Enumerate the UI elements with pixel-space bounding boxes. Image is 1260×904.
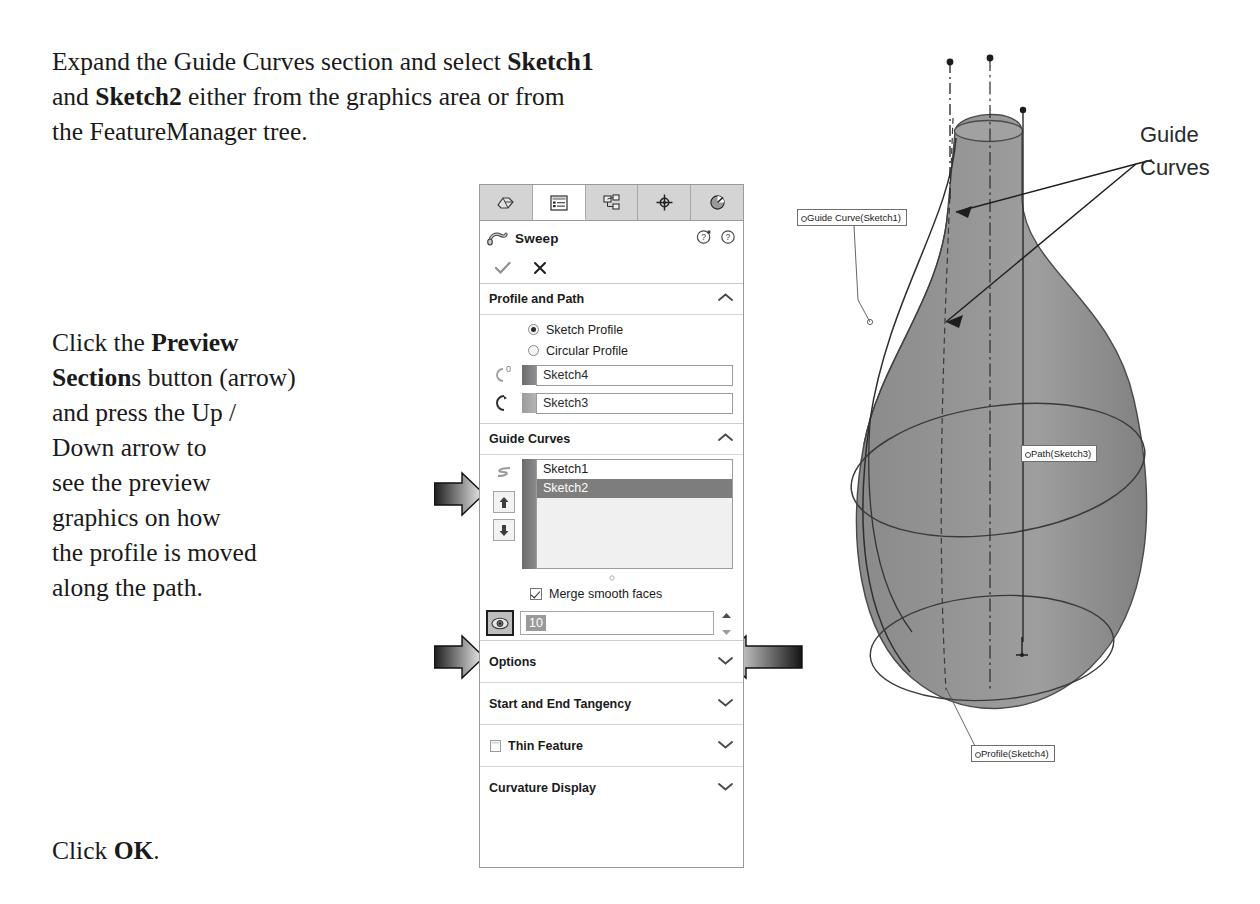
- annotation-line-1: Guide: [1140, 118, 1210, 151]
- list-item[interactable]: Sketch1: [537, 460, 732, 479]
- intro-bold-sketch1: Sketch1: [507, 47, 593, 76]
- section-label-start-and-end-tangency: Start and End Tangency: [489, 697, 631, 711]
- page-title: Sweep: [515, 231, 559, 246]
- tutorial-page: Expand the Guide Curves section and sele…: [0, 0, 1260, 904]
- section-header-guide-curves[interactable]: Guide Curves: [480, 424, 743, 455]
- intro-text-1: Expand the Guide Curves section and sele…: [52, 47, 507, 76]
- help-whats-new-icon[interactable]: ?: [696, 228, 713, 248]
- profile-sweep-icon: 0: [486, 364, 522, 386]
- preview-sections-spinner[interactable]: [720, 611, 733, 635]
- display-manager-tab[interactable]: [691, 185, 743, 220]
- preview-text-4: Down arrow to: [52, 433, 206, 462]
- path-endpoint: [1020, 107, 1026, 113]
- dimxpert-manager-tab[interactable]: [638, 185, 691, 220]
- preview-text-8: along the path.: [52, 573, 203, 602]
- annotation-line-2: Curves: [1140, 151, 1210, 184]
- annotation-guide-curves-label: Guide Curves: [1140, 118, 1210, 184]
- guide-curve-callout[interactable]: Guide Curve(Sketch1): [797, 209, 907, 226]
- radio-sketch-profile-label: Sketch Profile: [546, 323, 623, 337]
- preview-text-3: and press the Up /: [52, 398, 236, 427]
- preview-sections-count-input[interactable]: 10: [520, 611, 714, 635]
- eye-preview-sections-icon[interactable]: [486, 610, 514, 636]
- move-guide-curve-down-button[interactable]: [493, 519, 515, 541]
- merge-smooth-faces-checkbox[interactable]: Merge smooth faces: [480, 582, 743, 606]
- section-label-thin-feature: Thin Feature: [508, 739, 583, 753]
- cross-icon[interactable]: [532, 260, 548, 279]
- sweep-icon: [487, 229, 509, 247]
- path-endpoint-top: [947, 59, 954, 66]
- intro-bold-sketch2: Sketch2: [95, 82, 181, 111]
- chevron-down-icon[interactable]: [717, 697, 734, 711]
- ok-text-2: .: [153, 836, 159, 865]
- vase-top-opening: [955, 121, 1023, 142]
- preview-text-7: the profile is moved: [52, 538, 257, 567]
- preview-sections-count-value: 10: [526, 615, 546, 631]
- configuration-manager-tab[interactable]: [586, 185, 639, 220]
- section-header-thin-feature[interactable]: Thin Feature: [480, 725, 743, 767]
- chevron-up-icon[interactable]: [717, 432, 734, 446]
- svg-text:?: ?: [726, 232, 731, 242]
- preview-text-6: graphics on how: [52, 503, 221, 532]
- section-header-options[interactable]: Options: [480, 641, 743, 683]
- guide-curves-toolbar: [486, 459, 522, 569]
- chevron-down-icon[interactable]: [717, 655, 734, 669]
- guide-curve-callout-leader: [854, 226, 870, 322]
- section-header-profile-and-path[interactable]: Profile and Path: [480, 284, 743, 315]
- path-selection-field[interactable]: Sketch3: [536, 393, 733, 414]
- merge-smooth-faces-checkbox-indicator: [530, 588, 542, 600]
- svg-text:0: 0: [506, 364, 511, 374]
- thin-feature-checkbox-icon[interactable]: [489, 739, 502, 753]
- list-item[interactable]: Sketch2: [537, 479, 732, 498]
- path-selection-row: Sketch3: [480, 389, 743, 417]
- instruction-paragraph-intro: Expand the Guide Curves section and sele…: [52, 44, 652, 149]
- appearance-sphere-icon: [707, 193, 728, 212]
- ok-text-1: Click: [52, 836, 114, 865]
- ok-bold: OK: [114, 836, 154, 865]
- chevron-up-icon[interactable]: [717, 292, 734, 306]
- spinner-up-icon[interactable]: [721, 608, 732, 622]
- profile-callout[interactable]: Profile(Sketch4): [971, 745, 1055, 762]
- checkmark-icon[interactable]: [494, 260, 512, 279]
- guide-curves-list[interactable]: Sketch1 Sketch2: [536, 459, 733, 569]
- profile-selection-field[interactable]: Sketch4: [536, 365, 733, 386]
- preview-bold-section: Section: [52, 363, 131, 392]
- move-guide-curve-up-button[interactable]: [493, 491, 515, 513]
- origin-point: [1020, 653, 1024, 657]
- path-selection-swatch: [522, 393, 536, 413]
- section-body-profile-and-path: Sketch Profile Circular Profile 0 Sketch…: [480, 315, 743, 423]
- property-list-icon: [548, 193, 569, 212]
- section-body-guide-curves: Sketch1 Sketch2: [480, 455, 743, 573]
- configuration-icon: [601, 193, 622, 212]
- radio-sketch-profile[interactable]: Sketch Profile: [480, 319, 743, 340]
- intro-text-2: and: [52, 82, 95, 111]
- property-manager-title-row: Sweep ? ?: [480, 221, 743, 255]
- feature-tree-icon: [495, 193, 516, 212]
- section-header-start-and-end-tangency[interactable]: Start and End Tangency: [480, 683, 743, 725]
- svg-text:?: ?: [701, 232, 706, 242]
- merge-smooth-faces-label: Merge smooth faces: [549, 587, 662, 601]
- preview-text-5: see the preview: [52, 468, 211, 497]
- property-manager-tab[interactable]: [533, 185, 586, 220]
- guide-curves-resize-grip[interactable]: [480, 573, 743, 582]
- path-callout[interactable]: Path(Sketch3): [1021, 445, 1097, 462]
- spinner-down-icon[interactable]: [721, 625, 732, 639]
- section-header-curvature-display[interactable]: Curvature Display: [480, 767, 743, 808]
- chevron-down-icon[interactable]: [717, 781, 734, 795]
- profile-selection-row: 0 Sketch4: [480, 361, 743, 389]
- section-label-curvature-display: Curvature Display: [489, 781, 596, 795]
- chevron-down-icon[interactable]: [717, 739, 734, 753]
- radio-circular-profile-indicator: [528, 345, 539, 356]
- guide-curve-icon: [492, 459, 516, 485]
- radio-circular-profile[interactable]: Circular Profile: [480, 340, 743, 361]
- preview-text-2: s button (arrow): [131, 363, 295, 392]
- section-label-guide-curves: Guide Curves: [489, 432, 570, 446]
- property-manager-confirm-row: [480, 255, 743, 284]
- section-label-options: Options: [489, 655, 536, 669]
- guide-curves-selection-swatch: [522, 459, 536, 569]
- crosshair-target-icon: [654, 193, 675, 212]
- centerline-endpoint-top: [987, 55, 994, 62]
- feature-manager-tree-tab[interactable]: [480, 185, 533, 220]
- intro-text-4: the FeatureManager tree.: [52, 117, 308, 146]
- instruction-paragraph-ok: Click OK.: [52, 833, 352, 868]
- help-question-icon[interactable]: ?: [720, 228, 736, 248]
